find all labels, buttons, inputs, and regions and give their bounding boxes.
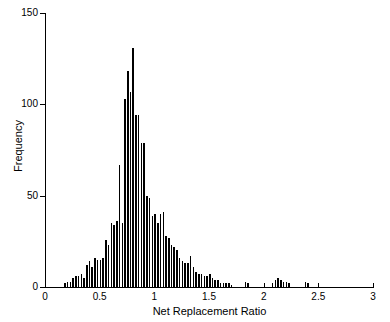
y-axis-title: Frequency [12,96,24,196]
histogram-bar [78,276,80,287]
histogram-bar [135,115,137,287]
x-tick-label: 2 [244,291,284,303]
histogram-bar [94,258,96,287]
histogram-bar [220,283,222,287]
histogram-bar [206,276,208,287]
plot-area [45,13,373,287]
histogram-figure: 050100150 00.511.522.53 Net Replacement … [0,0,390,322]
x-tick-label: 2.5 [298,291,338,303]
histogram-bar [275,280,277,287]
histogram-bar [184,263,186,287]
histogram-bar [83,278,85,287]
histogram-bar [132,48,134,287]
histogram-bar [108,245,110,287]
histogram-bar [122,223,124,287]
histogram-bar [116,221,118,287]
histogram-bar [105,240,107,287]
x-axis-title: Net Replacement Ratio [45,305,374,317]
histogram-bar [160,214,162,287]
histogram-bar [247,283,249,287]
x-tick-mark [373,283,374,288]
histogram-bars [45,13,373,287]
histogram-bar [102,258,104,287]
x-tick-label: 0 [25,291,65,303]
histogram-bar [195,272,197,287]
histogram-bar [182,261,184,287]
histogram-bar [70,282,72,287]
histogram-bar [209,274,211,287]
histogram-bar [217,280,219,287]
histogram-bar [138,115,140,287]
histogram-bar [130,92,132,287]
histogram-bar [143,143,145,287]
y-tick-label: 150 [21,8,38,18]
histogram-bar [286,282,288,287]
histogram-bar [283,282,285,287]
histogram-bar [163,212,165,287]
histogram-bar [225,283,227,287]
histogram-bar [277,278,279,287]
histogram-bar [100,260,102,287]
histogram-bar [154,214,156,287]
histogram-bar [245,282,247,287]
histogram-bar [212,278,214,287]
histogram-bar [228,283,230,287]
histogram-bar [97,260,99,287]
histogram-bar [124,99,126,287]
histogram-bar [157,223,159,287]
histogram-bar [119,165,121,287]
histogram-bar [165,236,167,287]
histogram-bar [305,282,307,287]
histogram-bar [231,285,233,287]
histogram-bar [173,247,175,287]
histogram-bar [193,267,195,287]
x-tick-label: 1 [134,291,174,303]
histogram-bar [171,245,173,287]
x-tick-label: 0.5 [80,291,120,303]
histogram-bar [187,263,189,287]
histogram-bar [201,274,203,287]
histogram-bar [272,283,274,287]
x-tick-label: 3 [353,291,390,303]
histogram-bar [307,283,309,287]
histogram-bar [176,250,178,287]
histogram-bar [223,283,225,287]
histogram-bar [152,216,154,287]
histogram-bar [214,280,216,287]
histogram-bar [81,274,83,287]
histogram-bar [190,256,192,287]
y-tick-label: 50 [27,191,38,201]
histogram-bar [141,143,143,287]
histogram-bar [146,196,148,287]
histogram-bar [127,71,129,287]
histogram-bar [67,282,69,287]
histogram-bar [179,258,181,287]
histogram-bar [149,198,151,288]
histogram-bar [91,267,93,287]
histogram-bar [64,283,66,287]
histogram-bar [111,223,113,287]
histogram-bar [86,265,88,287]
histogram-bar [75,276,77,287]
histogram-bar [89,261,91,287]
histogram-bar [204,276,206,287]
histogram-bar [168,238,170,287]
histogram-bar [113,225,115,287]
histogram-bar [288,283,290,287]
histogram-bar [280,280,282,287]
histogram-bar [198,274,200,287]
x-tick-label: 1.5 [189,291,229,303]
histogram-bar [72,278,74,287]
